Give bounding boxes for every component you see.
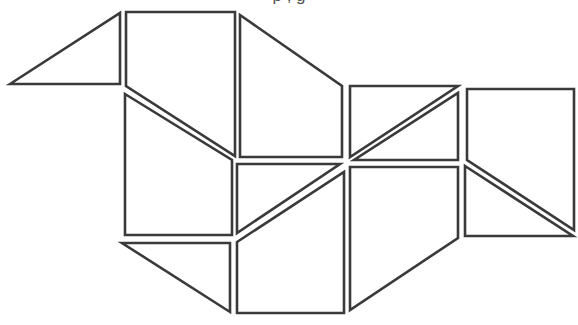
top-middle-trapezoid bbox=[240, 15, 342, 157]
left-triangle bbox=[10, 13, 120, 84]
bottom-right-center-trapezoid bbox=[350, 167, 458, 310]
bottom-left-triangle bbox=[122, 243, 230, 312]
tangram-figure bbox=[0, 0, 578, 325]
